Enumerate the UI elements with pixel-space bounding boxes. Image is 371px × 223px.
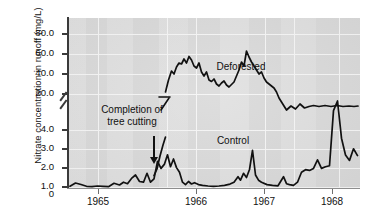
y-tick-label-0: 0 (8, 188, 54, 199)
y-tick-80 (62, 33, 67, 35)
series-line-deforested (166, 51, 359, 110)
x-tick-1967 (264, 189, 265, 194)
y-tick-60 (62, 53, 67, 55)
y-tick-label-40: 40.0 (8, 67, 54, 78)
x-tick-label-1966: 1966 (185, 196, 207, 207)
x-axis-line (67, 188, 360, 189)
x-tick-1968 (332, 189, 333, 194)
y-tick-40 (62, 73, 67, 75)
y-tick-2 (62, 167, 67, 169)
x-tick-label-1965: 1965 (87, 196, 109, 207)
y-tick-1 (62, 186, 67, 188)
x-tick-1965 (98, 189, 99, 194)
annotation-tree-cutting-line1: Completion oftree cutting (101, 104, 163, 127)
series-label-control: Control (217, 135, 249, 146)
x-tick-label-1968: 1968 (321, 196, 343, 207)
y-tick-4 (62, 129, 67, 131)
plot-area: Deforested Control Completion oftree cut… (69, 18, 360, 188)
chart-figure: Nitrate concentration in runoff (mg/L) (0, 0, 371, 223)
series-label-deforested: Deforested (217, 61, 266, 72)
y-tick-label-60: 60.0 (8, 47, 54, 58)
y-tick-20 (62, 93, 67, 95)
x-tick-label-1967: 1967 (253, 196, 275, 207)
y-tick-label-4: 4.0 (8, 123, 54, 134)
y-tick-label-80: 80.0 (8, 27, 54, 38)
y-tick-label-20: 20.0 (8, 87, 54, 98)
y-tick-3 (62, 148, 67, 150)
series-lines (69, 18, 360, 188)
y-tick-label-2: 2.0 (8, 161, 54, 172)
y-tick-label-3: 3.0 (8, 142, 54, 153)
x-tick-1966 (196, 189, 197, 194)
annotation-arrow-icon (153, 136, 155, 158)
y-axis-break-icon (60, 96, 76, 114)
